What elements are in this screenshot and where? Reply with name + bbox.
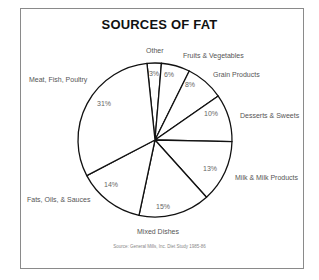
pct-desserts-sweets: 10% — [204, 110, 218, 117]
label-fats-oils-sauces: Fats, Oils, & Sauces — [27, 196, 90, 203]
pct-grain-products: 8% — [185, 81, 195, 88]
pct-fruits-vegetables: 6% — [164, 71, 174, 78]
pct-other: 3% — [149, 70, 159, 77]
label-meat-fish-poultry: Meat, Fish, Poultry — [29, 76, 87, 83]
pct-milk-products: 13% — [203, 165, 217, 172]
label-other: Other — [146, 47, 164, 54]
pct-mixed-dishes: 15% — [156, 203, 170, 210]
pct-meat-fish-poultry: 31% — [97, 100, 111, 107]
pie-slices — [78, 63, 232, 217]
label-fruits-vegetables: Fruits & Vegetables — [183, 52, 244, 59]
pct-fats-oils-sauces: 14% — [104, 181, 118, 188]
label-mixed-dishes: Mixed Dishes — [137, 228, 179, 235]
label-grain-products: Grain Products — [213, 71, 260, 78]
label-desserts-sweets: Desserts & Sweets — [240, 112, 299, 119]
source-note: Source: General Mills, Inc. Diet Study 1… — [0, 244, 319, 249]
label-milk-products: Milk & Milk Products — [235, 174, 298, 181]
pie-chart — [0, 0, 319, 280]
